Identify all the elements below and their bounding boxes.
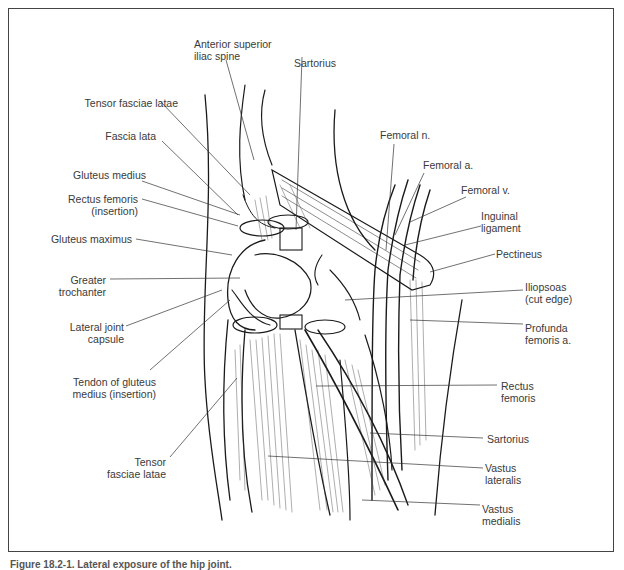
label-tensor-fasciae-latae-top: Tensor fasciae latae: [82, 97, 178, 109]
label-rectus-femoris-insertion: Rectus femoris (insertion): [50, 193, 138, 217]
thigh-medial-contour: [435, 300, 462, 515]
label-lateral-joint-capsule: Lateral joint capsule: [50, 321, 124, 345]
label-vastus-lateralis: Vastus lateralis: [485, 462, 521, 486]
label-vastus-medialis: Vastus medialis: [482, 503, 521, 527]
label-femoral-nerve: Femoral n.: [380, 129, 430, 141]
vastus-medialis-shape: [340, 360, 350, 520]
label-pectineus: Pectineus: [496, 248, 542, 260]
gluteus-maximus-outline: [228, 240, 265, 330]
label-gluteus-medius: Gluteus medius: [60, 169, 146, 181]
label-tendon-of-gluteus-medius: Tendon of gluteus medius (insertion): [50, 376, 156, 400]
inner-curve: [334, 110, 375, 250]
tensor-fasciae-latae-shape: [224, 320, 230, 500]
label-sartorius-top: Sartorius: [294, 57, 336, 69]
label-tensor-fasciae-latae-bottom: Tensor fasciae latae: [90, 456, 166, 480]
femoral-bundle: [372, 180, 430, 500]
label-gluteus-maximus: Gluteus maximus: [40, 233, 132, 245]
label-rectus-femoris: Rectus femoris: [501, 380, 535, 404]
label-sartorius-bottom: Sartorius: [487, 433, 529, 445]
label-iliopsoas: Iliopsoas (cut edge): [525, 281, 572, 305]
label-femoral-artery: Femoral a.: [423, 159, 473, 171]
greater-trochanter-shape: [245, 254, 311, 318]
figure-caption: Figure 18.2-1. Lateral exposure of the h…: [10, 559, 232, 570]
rectus-femoris-shape: [295, 330, 330, 515]
label-greater-trochanter: Greater trochanter: [40, 274, 106, 298]
label-anterior-superior-iliac-spine: Anterior superior iliac spine: [194, 38, 272, 62]
label-profunda-femoris: Profunda femoris a.: [525, 322, 571, 346]
thigh-lateral-contour: [204, 95, 222, 520]
label-femoral-vein: Femoral v.: [461, 184, 510, 196]
label-fascia-lata: Fascia lata: [92, 130, 156, 142]
label-inguinal-ligament: Inguinal ligament: [481, 210, 521, 234]
